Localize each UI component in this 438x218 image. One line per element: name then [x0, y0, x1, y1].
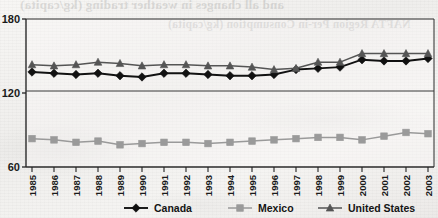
data-point-mexico-2000	[359, 137, 366, 144]
data-point-mexico-1989	[117, 142, 124, 149]
legend-marker-mexico	[237, 205, 244, 212]
y-tick-label-180: 180	[2, 13, 20, 25]
data-point-mexico-2002	[403, 129, 410, 136]
legend-item-united-states[interactable]: United States	[318, 202, 415, 214]
legend-label-canada: Canada	[154, 202, 192, 214]
x-tick-label-2002: 2002	[401, 175, 412, 196]
data-point-mexico-2001	[381, 133, 388, 140]
legend-label-united-states: United States	[348, 202, 415, 214]
data-point-mexico-1994	[227, 139, 234, 146]
x-tick-label-1993: 1993	[203, 175, 214, 196]
y-tick-label-60: 60	[8, 161, 20, 173]
data-point-mexico-2003	[425, 130, 432, 137]
x-tick-label-1988: 1988	[93, 175, 104, 196]
y-axis: 60120180	[2, 13, 26, 173]
x-axis-labels: 1985198619871988198919901991199219931994…	[27, 174, 434, 196]
data-point-mexico-1995	[249, 138, 256, 145]
data-point-mexico-1999	[337, 134, 344, 141]
data-point-mexico-1993	[205, 140, 212, 147]
data-point-mexico-1996	[271, 137, 278, 144]
x-tick-label-1996: 1996	[269, 175, 280, 196]
x-tick-label-1994: 1994	[225, 174, 236, 196]
data-point-mexico-1988	[95, 138, 102, 145]
x-tick-label-2000: 2000	[357, 175, 368, 196]
legend-item-canada[interactable]: Canada	[124, 202, 192, 214]
legend-marker-canada	[132, 204, 140, 212]
x-tick-label-1992: 1992	[181, 175, 192, 196]
x-tick-label-1989: 1989	[115, 175, 126, 196]
data-point-mexico-1986	[51, 137, 58, 144]
x-tick-label-2001: 2001	[379, 174, 390, 196]
x-axis-ticks	[32, 167, 428, 172]
legend-item-mexico[interactable]: Mexico	[228, 202, 294, 214]
chart-container: 60120180 1985198619871988198919901991199…	[0, 0, 438, 218]
data-point-mexico-1992	[183, 139, 190, 146]
x-tick-label-1987: 1987	[71, 175, 82, 196]
x-tick-label-1985: 1985	[27, 174, 38, 196]
x-tick-label-1999: 1999	[335, 175, 346, 196]
data-point-mexico-1991	[161, 139, 168, 146]
data-point-mexico-1990	[139, 140, 146, 147]
data-point-mexico-1998	[315, 134, 322, 141]
x-tick-label-1990: 1990	[137, 175, 148, 196]
x-tick-label-1986: 1986	[49, 175, 60, 196]
chart-legend: CanadaMexicoUnited States	[124, 202, 415, 214]
x-tick-label-2003: 2003	[423, 175, 434, 196]
legend-label-mexico: Mexico	[258, 202, 294, 214]
y-tick-label-120: 120	[2, 87, 20, 99]
data-point-mexico-1997	[293, 135, 300, 142]
data-point-mexico-1985	[29, 135, 36, 142]
data-point-mexico-1987	[73, 139, 80, 146]
x-tick-label-1995: 1995	[247, 174, 258, 196]
line-chart: 60120180 1985198619871988198919901991199…	[0, 0, 438, 218]
x-tick-label-1997: 1997	[291, 175, 302, 196]
x-tick-label-1998: 1998	[313, 175, 324, 196]
x-tick-label-1991: 1991	[159, 174, 170, 196]
